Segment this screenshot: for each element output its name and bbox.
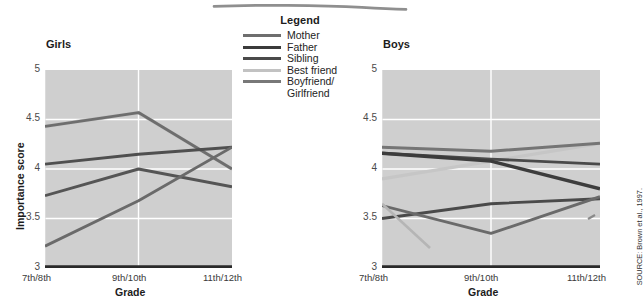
x-tick-girls-9th-10th: 9th/10th [112, 272, 146, 283]
panel-boys: Boys 5 4.5 4 3.5 3 [337, 0, 637, 302]
y-tick-girls-3.5: 3.5 [14, 211, 40, 222]
y-tick-girls-4: 4 [14, 162, 40, 173]
y-tick-boys-4.5: 4.5 [351, 112, 377, 123]
y-tick-boys-3: 3 [351, 261, 377, 272]
source-note: SOURCE: Brown et al., 1997. [635, 188, 644, 285]
x-axis-title-girls: Grade [115, 286, 145, 298]
x-tick-boys-11th-12th: 11th/12th [567, 272, 606, 283]
x-axis-title-boys: Grade [468, 286, 498, 298]
plot-lines-boys [382, 70, 600, 268]
plot-area-girls [45, 70, 232, 268]
panel-title-girls: Girls [46, 38, 71, 50]
x-tick-boys-7th-8th: 7th/8th [359, 272, 388, 283]
panel-girls: Girls Importance score 5 4.5 4 3.5 3 [0, 0, 300, 302]
y-tick-girls-4.5: 4.5 [14, 112, 40, 123]
plot-area-boys [382, 70, 600, 268]
y-tick-girls-5: 5 [14, 63, 40, 74]
x-tick-girls-11th-12th: 11th/12th [203, 272, 242, 283]
plot-lines-girls [45, 70, 232, 268]
x-tick-boys-9th-10th: 9th/10th [464, 272, 498, 283]
y-tick-boys-4: 4 [351, 162, 377, 173]
y-tick-boys-5: 5 [351, 63, 377, 74]
panel-title-boys: Boys [383, 38, 410, 50]
y-tick-girls-3: 3 [14, 261, 40, 272]
y-tick-boys-3.5: 3.5 [351, 211, 377, 222]
x-tick-girls-7th-8th: 7th/8th [22, 272, 51, 283]
